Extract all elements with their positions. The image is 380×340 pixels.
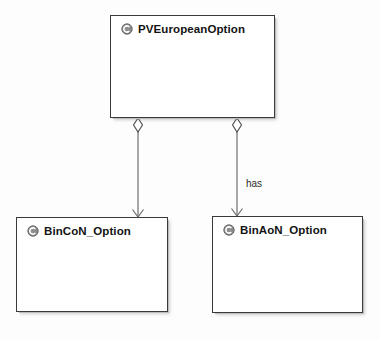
class-header: BinAoN_Option [213,217,362,236]
class-name-label: BinAoN_Option [240,224,327,236]
open-arrow-marker [232,209,243,217]
class-box-bin-aon-option[interactable]: BinAoN_Option [212,216,363,313]
class-name-label: BinCoN_Option [44,225,131,237]
class-box-bin-con-option[interactable]: BinCoN_Option [16,217,168,312]
class-box-pv-european-option[interactable]: PVEuropeanOption [110,15,275,118]
relationship-aggregation-binaon[interactable] [232,118,243,216]
class-header: BinCoN_Option [17,218,167,237]
class-icon [223,224,235,236]
class-icon [121,23,133,35]
hollow-diamond-marker [134,118,143,132]
class-icon [27,225,39,237]
uml-diagram-canvas: PVEuropeanOption BinCoN_Option BinAoN_Op… [0,0,380,340]
relationship-aggregation-bincon[interactable] [133,118,144,217]
class-name-label: PVEuropeanOption [138,23,245,35]
open-arrow-marker [133,210,144,218]
hollow-diamond-marker [233,118,242,132]
class-header: PVEuropeanOption [111,16,274,35]
relationship-label-has: has [246,178,262,189]
